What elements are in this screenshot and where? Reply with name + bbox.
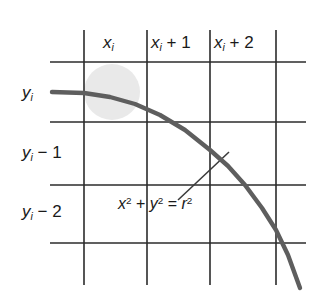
circle-raster-diagram: xi xi + 1 xi + 2 yi yi − 1 yi − 2 x2 + y… [0,0,329,301]
row-label-y-i-minus-1: yi − 1 [22,144,62,161]
row-label-y-i-base: y [22,83,31,102]
column-label-x-i-sub: i [112,41,114,53]
row-label-y-i-minus-1-offset: − 1 [33,143,62,162]
equation-r-exponent: 2 [187,195,193,206]
row-label-y-i-minus-2: yi − 2 [22,203,62,220]
column-label-x-i-plus-1: xi + 1 [151,34,191,51]
column-label-x-i-base: x [103,33,112,52]
row-label-y-i-sub: i [31,91,33,103]
row-label-y-i-minus-2-base: y [22,202,31,221]
column-label-x-i: xi [103,34,114,51]
equation-y: y [150,195,158,212]
row-label-y-i-minus-1-base: y [22,143,31,162]
highlight-disc [84,64,140,120]
equation-equals: = [163,195,181,212]
column-label-x-i-plus-2: xi + 2 [214,34,254,51]
circle-equation-label: x2 + y2 = r2 [118,196,192,212]
column-label-x-i-plus-2-offset: + 2 [225,33,254,52]
equation-x: x [118,195,126,212]
row-label-y-i: yi [22,84,33,101]
column-label-x-i-plus-1-offset: + 1 [162,33,191,52]
equation-plus: + [132,195,150,212]
column-label-x-i-plus-1-base: x [151,33,160,52]
column-label-x-i-plus-2-base: x [214,33,223,52]
row-label-y-i-minus-2-offset: − 2 [33,202,62,221]
